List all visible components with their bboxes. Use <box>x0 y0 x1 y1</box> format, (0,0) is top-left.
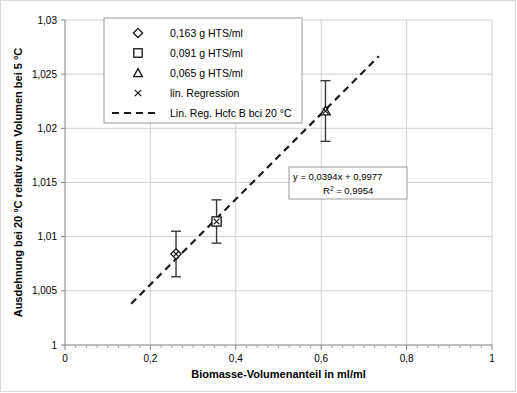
y-tick-label: 1,03 <box>38 15 58 26</box>
x-tick-label: 1 <box>489 353 495 364</box>
chart-root: 11,0051,011,0151,021,0251,0300,20,40,60,… <box>0 0 517 393</box>
legend-item-label: 0,065 g HTS/ml <box>170 67 243 79</box>
y-tick-label: 1,015 <box>32 177 57 188</box>
x-tick-label: 0 <box>62 353 68 364</box>
y-tick-label: 1,02 <box>38 123 58 134</box>
y-tick-label: 1 <box>51 340 57 351</box>
equation-text: y = 0,0394x + 0,9977 <box>293 171 382 182</box>
x-tick-label: 0,2 <box>143 353 157 364</box>
y-axis-title: Ausdehnung bei 20 °C relativ zum Volumen… <box>12 48 24 318</box>
x-tick-label: 0,6 <box>314 353 328 364</box>
legend: 0,163 g HTS/ml0,091 g HTS/ml0,065 g HTS/… <box>104 18 302 123</box>
y-tick-label: 1,01 <box>38 231 58 242</box>
x-tick-label: 0,4 <box>229 353 243 364</box>
legend-item-label: 0,163 g HTS/ml <box>170 27 243 39</box>
legend-item-label: Lin. Reg. Hcfc B bci 20 °C <box>170 107 292 119</box>
x-tick-label: 0,8 <box>400 353 414 364</box>
legend-item-label: 0,091 g HTS/ml <box>170 47 243 59</box>
legend-item-label: lin. Regression <box>170 87 240 99</box>
y-tick-label: 1,025 <box>32 69 57 80</box>
x-axis-title: Biomasse-Volumenanteil in ml/ml <box>191 368 366 380</box>
y-tick-label: 1,005 <box>32 285 57 296</box>
scatter-chart: 11,0051,011,0151,021,0251,0300,20,40,60,… <box>0 0 517 393</box>
square-marker <box>134 49 142 57</box>
equation-annotation: y = 0,0394x + 0,9977R2 = 0,9954 <box>289 167 407 199</box>
